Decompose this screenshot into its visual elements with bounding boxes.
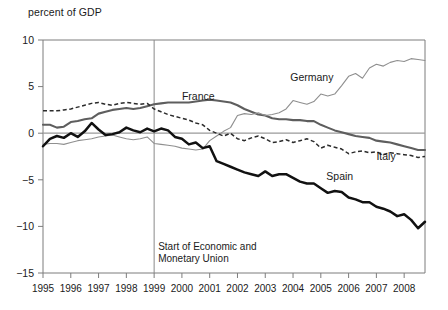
series-line-france xyxy=(43,100,425,150)
y-tick-label: −10 xyxy=(16,220,34,232)
x-tick-label: 1996 xyxy=(60,283,83,294)
y-tick-label: 5 xyxy=(28,80,34,92)
series-line-spain xyxy=(43,123,425,228)
line-chart-svg: 1050−5−10−15 199519961997199819992000200… xyxy=(0,0,448,310)
x-tick-label: 1997 xyxy=(87,283,110,294)
series-label-spain: Spain xyxy=(326,170,353,182)
x-tick-label: 2000 xyxy=(171,283,194,294)
series-label-germany: Germany xyxy=(290,71,334,83)
x-tick-label: 1999 xyxy=(143,283,166,294)
y-tick-label: 0 xyxy=(28,127,34,139)
x-tick-label: 2001 xyxy=(199,283,222,294)
x-tick-label: 2007 xyxy=(365,283,388,294)
x-tick-label: 2006 xyxy=(337,283,360,294)
series-label-italy: Italy xyxy=(376,150,396,162)
y-tick-label: −15 xyxy=(16,267,34,279)
emu-annotation-line1: Start of Economic and xyxy=(158,241,256,252)
chart-figure: percent of GDP 1050−5−10−15 199519961997… xyxy=(0,0,448,310)
x-tick-label: 2005 xyxy=(310,283,333,294)
plot-frame xyxy=(43,40,425,273)
x-tick-label: 2004 xyxy=(282,283,305,294)
x-tick-label: 1998 xyxy=(115,283,138,294)
y-tick-label: 10 xyxy=(22,34,34,46)
x-tick-label: 2002 xyxy=(226,283,249,294)
plot-border xyxy=(43,40,425,273)
emu-annotation-text: Start of Economic andMonetary Union xyxy=(158,241,256,264)
x-tick-label: 2003 xyxy=(254,283,277,294)
x-tick-label: 2008 xyxy=(393,283,416,294)
series-label-france: France xyxy=(182,90,215,102)
data-series-group xyxy=(43,59,425,229)
x-axis-ticks: 1995199619971998199920002001200220032004… xyxy=(32,273,416,294)
y-axis-ticks: 1050−5−10−15 xyxy=(16,34,43,279)
series-labels: FranceGermanyItalySpain xyxy=(182,71,396,182)
y-tick-label: −5 xyxy=(22,174,34,186)
x-tick-label: 1995 xyxy=(32,283,55,294)
emu-annotation-line2: Monetary Union xyxy=(158,253,229,264)
